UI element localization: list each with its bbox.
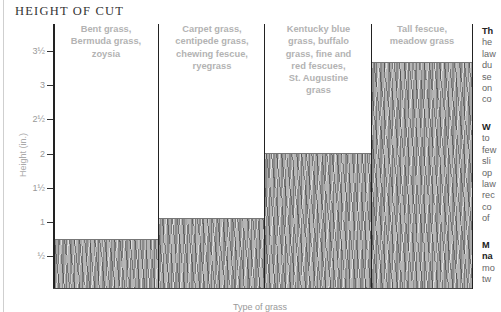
column-divider (158, 24, 159, 289)
label-line: St. Augustine (267, 72, 370, 84)
side-bold-lead: na (482, 251, 493, 261)
y-tick-label: 3½ (32, 46, 45, 56)
side-line: of (482, 213, 490, 223)
bar-bent-grass (54, 239, 158, 288)
side-paragraph-1: Th he law du se on co (482, 26, 496, 106)
side-bold-lead: M (482, 240, 490, 250)
side-line: to (482, 133, 490, 143)
label-line: grass, buffalo (267, 35, 370, 47)
x-axis-label: Type of grass (233, 302, 287, 312)
label-line: Bermuda grass, (56, 35, 156, 47)
side-line: co (482, 94, 492, 104)
side-line: law (482, 49, 496, 59)
y-tick-label: 1½ (32, 183, 45, 193)
side-bold-lead: Th (482, 26, 493, 36)
label-line: grass (267, 84, 370, 96)
column-label-tall-fescue: Tall fescue, meadow grass (373, 23, 471, 48)
side-line: on (482, 83, 492, 93)
label-line: Bent grass, (56, 23, 156, 35)
column-label-bent-grass: Bent grass, Bermuda grass, zoysia (56, 23, 156, 60)
label-line: chewing fescue, (161, 48, 263, 60)
side-line: op (482, 168, 492, 178)
y-tick-label: ½ (37, 251, 45, 261)
column-divider (472, 24, 473, 289)
side-line: co (482, 202, 492, 212)
chart-title: HEIGHT OF CUT (15, 4, 124, 19)
y-axis-label: Height (in.) (18, 120, 28, 190)
side-line: few (482, 145, 496, 155)
label-line: zoysia (56, 48, 156, 60)
side-line: tw (482, 274, 491, 284)
label-line: grass, fine and (267, 48, 370, 60)
page-left-rule (3, 0, 4, 312)
y-axis-line (53, 24, 55, 289)
x-axis-baseline (53, 288, 472, 289)
label-line: Tall fescue, (373, 23, 471, 35)
label-line: meadow grass (373, 35, 471, 47)
side-line: du (482, 60, 492, 70)
column-divider (371, 24, 372, 289)
side-paragraph-3: M na mo tw (482, 240, 495, 286)
side-line: se (482, 72, 492, 82)
side-line: rec (482, 190, 495, 200)
side-line: law (482, 179, 496, 189)
column-label-carpet-grass: Carpet grass, centipede grass, chewing f… (161, 23, 263, 72)
side-line: sli (482, 156, 491, 166)
label-line: Carpet grass, (161, 23, 263, 35)
label-line: red fescues, (267, 60, 370, 72)
label-line: Kentucky blue (267, 23, 370, 35)
y-tick-label: 3 (40, 80, 45, 90)
side-paragraph-2: W to few sli op law rec co of (482, 122, 496, 225)
side-line: mo (482, 263, 495, 273)
y-tick-label: 1 (40, 217, 45, 227)
bar-carpet-grass (159, 218, 264, 288)
column-divider (264, 24, 265, 289)
column-label-kentucky-blue: Kentucky blue grass, buffalo grass, fine… (267, 23, 370, 97)
y-tick-label: 2½ (32, 114, 45, 124)
side-line: he (482, 37, 492, 47)
bar-kentucky-blue-grass (265, 153, 371, 288)
side-bold-lead: W (482, 122, 491, 132)
bar-tall-fescue (372, 62, 472, 288)
label-line: centipede grass, (161, 35, 263, 47)
label-line: ryegrass (161, 60, 263, 72)
y-tick-label: 2 (40, 149, 45, 159)
